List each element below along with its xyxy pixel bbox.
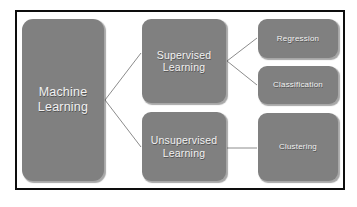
node-supervised-learning-label: Supervised Learning [157,49,212,74]
node-regression-label: Regression [277,34,319,43]
node-regression: Regression [258,19,338,58]
node-classification: Classification [258,66,338,104]
node-unsupervised-learning: Unsupervised Learning [142,112,226,181]
node-clustering: Clustering [258,113,338,181]
node-classification-label: Classification [273,80,323,89]
diagram-canvas: Machine Learning Supervised Learning Uns… [0,0,357,207]
node-supervised-learning: Supervised Learning [142,19,226,103]
node-machine-learning: Machine Learning [22,19,104,181]
node-machine-learning-label: Machine Learning [38,85,88,115]
node-clustering-label: Clustering [279,142,317,151]
node-unsupervised-learning-label: Unsupervised Learning [151,134,218,159]
